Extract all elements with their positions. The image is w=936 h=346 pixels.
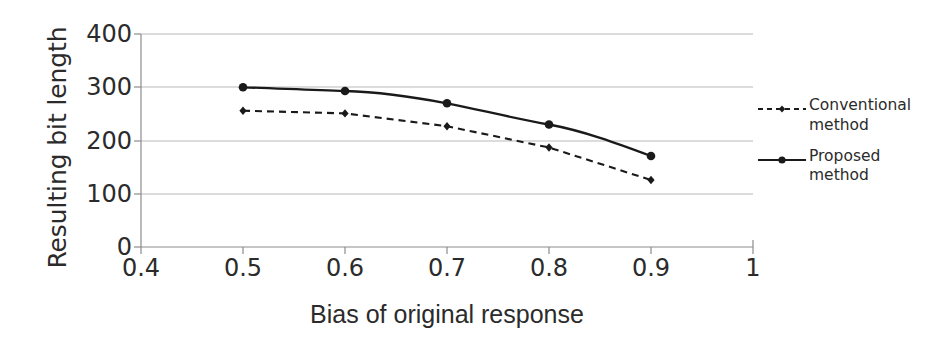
series-conventional-method <box>239 107 654 185</box>
legend-label-conventional-line1: Conventional <box>809 96 911 114</box>
legend-label-proposed-method: Proposedmethod <box>809 147 929 187</box>
x-tick-label-0-8: 0.8 <box>504 256 594 280</box>
x-axis-tick-labels: 0.4 0.5 0.6 0.7 0.8 0.9 1 <box>0 256 936 296</box>
chart-figure: Resulting bit length 400 300 200 100 0 <box>0 0 936 346</box>
y-axis-ticks <box>134 34 141 247</box>
series-proposed-markers <box>239 83 656 160</box>
legend-entry-conventional-method: Conventionalmethod <box>757 96 936 136</box>
legend-label-conventional-line2: method <box>809 116 869 134</box>
series-conventional-markers <box>239 107 654 185</box>
x-tick-label-0-7: 0.7 <box>402 256 492 280</box>
gridlines <box>141 34 753 194</box>
x-tick-label-0-5: 0.5 <box>198 256 288 280</box>
x-axis-ticks <box>141 247 753 254</box>
chart-legend: Conventionalmethod Proposedmethod <box>757 96 936 197</box>
x-tick-label-1: 1 <box>708 256 798 280</box>
legend-swatch-dashed-line <box>757 102 807 116</box>
legend-swatch-solid-line <box>757 153 807 167</box>
legend-label-proposed-line2: method <box>809 166 869 184</box>
x-tick-label-0-9: 0.9 <box>606 256 696 280</box>
x-axis-title: Bias of original response <box>141 300 753 329</box>
legend-label-conventional-method: Conventionalmethod <box>809 96 929 136</box>
legend-entry-proposed-method: Proposedmethod <box>757 147 936 187</box>
series-proposed-method <box>239 83 656 160</box>
x-tick-label-0-6: 0.6 <box>300 256 390 280</box>
x-tick-label-0-4: 0.4 <box>96 256 186 280</box>
legend-label-proposed-line1: Proposed <box>809 147 880 165</box>
